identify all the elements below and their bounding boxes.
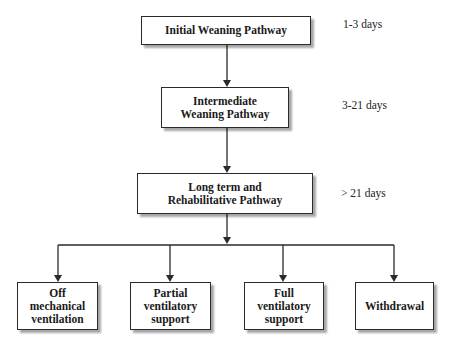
stage-label: Intermediate Weaning Pathway: [172, 95, 278, 121]
stage-long-term-rehabilitative: Long term and Rehabilitative Pathway: [137, 173, 313, 214]
outcome-label: Withdrawal: [365, 300, 424, 313]
outcome-label: Full ventilatory support: [253, 287, 315, 326]
stage-label: Long term and Rehabilitative Pathway: [156, 181, 294, 207]
stage-duration: 3-21 days: [342, 99, 387, 111]
outcome-full-ventilatory-support: Full ventilatory support: [244, 282, 324, 330]
stage-duration: > 21 days: [341, 187, 386, 199]
outcome-label: Partial ventilatory support: [139, 287, 202, 326]
stage-intermediate-weaning: Intermediate Weaning Pathway: [161, 87, 289, 128]
outcome-withdrawal: Withdrawal: [355, 282, 434, 330]
outcome-label: Off mechanical ventilation: [24, 287, 91, 326]
outcome-partial-ventilatory-support: Partial ventilatory support: [130, 282, 211, 330]
stage-initial-weaning: Initial Weaning Pathway: [141, 16, 311, 45]
outcome-off-mechanical-ventilation: Off mechanical ventilation: [17, 282, 98, 330]
stage-label: Initial Weaning Pathway: [165, 24, 287, 37]
stage-duration: 1-3 days: [343, 18, 382, 30]
